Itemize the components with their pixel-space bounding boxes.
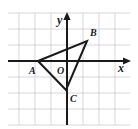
y-axis-label: y: [55, 13, 63, 27]
vertex-label-a: A: [28, 65, 36, 76]
coordinate-plane-figure: xyOABC: [0, 0, 138, 129]
vertex-label-b: B: [89, 27, 97, 38]
figure-canvas: xyOABC: [0, 0, 138, 129]
x-axis-label: x: [117, 61, 124, 75]
origin-label: O: [57, 65, 64, 76]
vertex-label-c: C: [70, 93, 77, 104]
